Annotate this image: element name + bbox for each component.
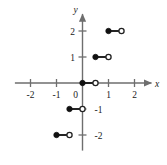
open-endpoint-circle	[93, 80, 98, 85]
closed-endpoint-dot	[80, 80, 85, 85]
graph-figure: -2-112-2-1120xy	[0, 0, 167, 165]
closed-endpoint-dot	[54, 132, 59, 137]
y-tick-label: 1	[70, 53, 75, 63]
y-axis-label: y	[72, 5, 78, 15]
y-tick-label: 2	[70, 27, 75, 37]
open-endpoint-circle	[80, 106, 85, 111]
coordinate-plane: -2-112-2-1120xy	[0, 0, 167, 165]
x-tick-label: 1	[106, 90, 111, 100]
x-axis-label: x	[154, 79, 160, 89]
closed-endpoint-dot	[67, 106, 72, 111]
closed-endpoint-dot	[93, 54, 98, 59]
closed-endpoint-dot	[106, 28, 111, 33]
y-tick-label: -2	[95, 131, 103, 141]
y-tick-label: -1	[95, 105, 103, 115]
x-tick-label: -2	[27, 90, 35, 100]
open-endpoint-circle	[106, 54, 111, 59]
open-endpoint-circle	[119, 28, 124, 33]
x-tick-label: 2	[132, 90, 137, 100]
origin-label: 0	[73, 90, 78, 100]
open-endpoint-circle	[67, 132, 72, 137]
x-tick-label: -1	[53, 90, 61, 100]
